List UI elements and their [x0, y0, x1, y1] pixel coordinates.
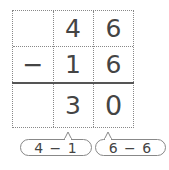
- hint-bubble-ones: 6 − 6: [95, 139, 166, 156]
- hint-label: 4 − 1: [34, 140, 77, 156]
- hint-label: 6 − 6: [109, 140, 152, 156]
- hint-bubble-tens: 4 − 1: [20, 139, 92, 156]
